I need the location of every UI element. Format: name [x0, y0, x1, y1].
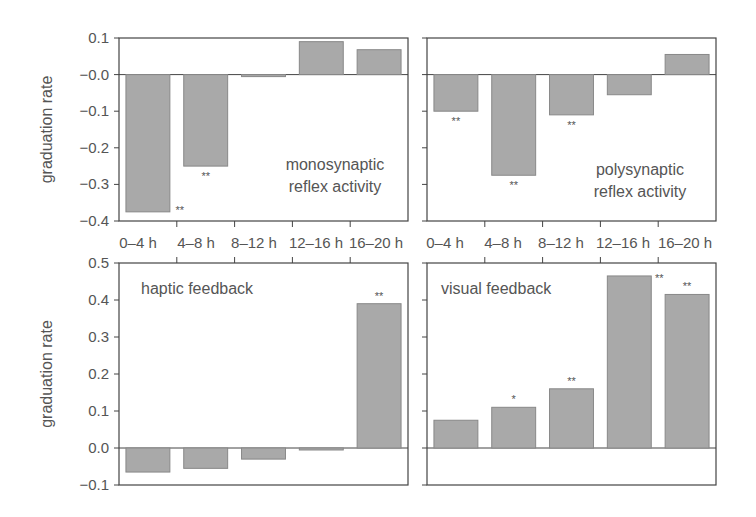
significance-marker: ** [176, 204, 185, 216]
bar [434, 75, 478, 112]
significance-marker: ** [567, 119, 576, 131]
bar [550, 75, 594, 115]
bar [299, 42, 343, 75]
bar [184, 448, 228, 468]
bar [434, 420, 478, 448]
x-tick-label: 0–4 h [119, 234, 157, 251]
y-tick-label: 0.1 [88, 402, 109, 419]
y-tick-label: 0.1 [88, 29, 109, 46]
significance-marker: ** [509, 179, 518, 191]
y-tick-label: −0.1 [79, 102, 109, 119]
significance-marker: ** [655, 272, 664, 284]
panel-label: reflex activity [594, 183, 686, 200]
bar [492, 407, 536, 448]
y-tick-label: −0.4 [79, 212, 109, 229]
panel-label: polysynaptic [596, 161, 684, 178]
y-tick-label: 0.3 [88, 328, 109, 345]
bar [607, 276, 651, 448]
x-tick-label: 16–20 h [658, 234, 712, 251]
bar [492, 75, 536, 176]
significance-marker: * [512, 393, 517, 405]
x-tick-label: 8–12 h [538, 234, 584, 251]
y-tick-label: −0.1 [79, 476, 109, 493]
y-tick-label: 0.2 [88, 365, 109, 382]
x-tick-label: 0–4 h [426, 234, 464, 251]
x-tick-label: 16–20 h [349, 234, 403, 251]
y-tick-label: −0.0 [79, 66, 109, 83]
y-tick-label: 0.5 [88, 254, 109, 271]
y-axis-label: graduation rate [38, 320, 55, 428]
x-tick-label: 12–16 h [596, 234, 650, 251]
panel-label: reflex activity [289, 178, 381, 195]
significance-marker: ** [452, 115, 461, 127]
bar [357, 304, 401, 448]
x-tick-label: 4–8 h [177, 234, 215, 251]
panel-label: monosynaptic [286, 156, 385, 173]
x-tick-label: 12–16 h [289, 234, 343, 251]
bar [665, 294, 709, 448]
significance-marker: ** [375, 290, 384, 302]
significance-marker: ** [683, 280, 692, 292]
panel-label: visual feedback [441, 280, 552, 297]
bar [242, 448, 286, 459]
bar [665, 54, 709, 74]
bar [299, 448, 343, 450]
y-tick-label: −0.3 [79, 175, 109, 192]
y-tick-label: 0.0 [88, 439, 109, 456]
bar [550, 389, 594, 448]
chart-figure: 0.1−0.0−0.1−0.2−0.3−0.4****monosynapticr… [0, 0, 756, 517]
significance-marker: ** [201, 170, 210, 182]
y-tick-label: −0.2 [79, 139, 109, 156]
bar [242, 75, 286, 77]
bar [607, 75, 651, 95]
bar [126, 448, 170, 472]
significance-marker: ** [567, 375, 576, 387]
panel-label: haptic feedback [141, 280, 254, 297]
y-tick-label: 0.4 [88, 291, 109, 308]
bar [184, 75, 228, 167]
bar [357, 50, 401, 75]
bar [126, 75, 170, 212]
x-tick-label: 4–8 h [484, 234, 522, 251]
y-axis-label: graduation rate [38, 76, 55, 184]
x-tick-label: 8–12 h [231, 234, 277, 251]
